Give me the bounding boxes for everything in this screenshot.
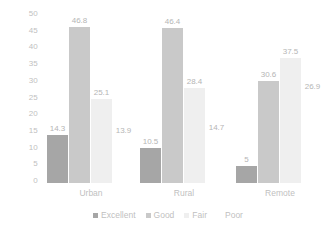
bar[interactable] <box>162 28 183 183</box>
bar-group-bars: 530.637.526.9 <box>236 16 324 183</box>
bar[interactable] <box>113 137 134 183</box>
bar[interactable] <box>47 135 68 183</box>
bar-value-label: 14.3 <box>50 124 66 133</box>
x-axis-category-label: Remote <box>236 188 324 198</box>
bar-value-label: 30.6 <box>261 70 277 79</box>
bar-value-label: 28.4 <box>187 77 203 86</box>
plot-area: 14.346.825.113.9Urban10.546.428.414.7Rur… <box>40 16 327 183</box>
bar-slot: 37.5 <box>280 16 301 183</box>
bar-value-label: 25.1 <box>94 88 110 97</box>
bar[interactable] <box>280 58 301 183</box>
bar-slot: 13.9 <box>113 16 134 183</box>
bar[interactable] <box>258 81 279 183</box>
legend-label: Fair <box>192 211 207 220</box>
legend-item[interactable]: Good <box>146 211 175 220</box>
y-axis-tick: 15 <box>14 127 38 135</box>
legend-swatch-icon <box>184 213 189 218</box>
bar-slot: 25.1 <box>91 16 112 183</box>
legend-swatch-icon <box>217 213 222 218</box>
y-axis-tick: 50 <box>14 10 38 18</box>
bar[interactable] <box>302 93 323 183</box>
bar-value-label: 14.7 <box>209 123 225 132</box>
bar-value-label: 46.4 <box>165 17 181 26</box>
bar-group: 14.346.825.113.9Urban <box>47 16 135 183</box>
bar-group: 530.637.526.9Remote <box>236 16 324 183</box>
bar[interactable] <box>236 166 257 183</box>
bar-slot: 10.5 <box>140 16 161 183</box>
y-axis-tick: 35 <box>14 60 38 68</box>
bar[interactable] <box>206 134 227 183</box>
bar-value-label: 5 <box>244 155 248 164</box>
chart-legend: ExcellentGoodFairPoor <box>0 211 336 220</box>
y-axis-tick: 25 <box>14 94 38 102</box>
legend-label: Good <box>154 211 175 220</box>
bar[interactable] <box>69 27 90 183</box>
x-axis-category-label: Rural <box>140 188 228 198</box>
x-axis-category-label: Urban <box>47 188 135 198</box>
grouped-bar-chart: 50454035302520151050 14.346.825.113.9Urb… <box>0 0 336 233</box>
bar-value-label: 10.5 <box>143 137 159 146</box>
y-axis-tick: 45 <box>14 27 38 35</box>
y-axis-tick: 20 <box>14 110 38 118</box>
bar[interactable] <box>140 148 161 183</box>
bar-slot: 46.8 <box>69 16 90 183</box>
y-axis-tick: 5 <box>14 160 38 168</box>
bar-slot: 26.9 <box>302 16 323 183</box>
bar-slot: 14.3 <box>47 16 68 183</box>
y-axis-tick: 10 <box>14 144 38 152</box>
y-axis-tick: 30 <box>14 77 38 85</box>
bar-slot: 28.4 <box>184 16 205 183</box>
legend-swatch-icon <box>93 213 98 218</box>
bar-group: 10.546.428.414.7Rural <box>140 16 228 183</box>
bar-slot: 46.4 <box>162 16 183 183</box>
y-axis-tick: 40 <box>14 43 38 51</box>
y-axis-tick: 0 <box>14 177 38 185</box>
legend-swatch-icon <box>146 213 151 218</box>
legend-label: Excellent <box>101 211 136 220</box>
bar-slot: 14.7 <box>206 16 227 183</box>
bar-group-bars: 10.546.428.414.7 <box>140 16 228 183</box>
bar-group-bars: 14.346.825.113.9 <box>47 16 135 183</box>
legend-item[interactable]: Excellent <box>93 211 136 220</box>
bar[interactable] <box>91 99 112 183</box>
bar-value-label: 26.9 <box>305 82 321 91</box>
bar-slot: 30.6 <box>258 16 279 183</box>
bar-value-label: 13.9 <box>116 126 132 135</box>
bar-slot: 5 <box>236 16 257 183</box>
y-axis: 50454035302520151050 <box>14 10 38 185</box>
bar-value-label: 37.5 <box>283 47 299 56</box>
legend-item[interactable]: Poor <box>217 211 243 220</box>
bar-value-label: 46.8 <box>72 16 88 25</box>
bar[interactable] <box>184 88 205 183</box>
legend-item[interactable]: Fair <box>184 211 207 220</box>
legend-label: Poor <box>225 211 243 220</box>
